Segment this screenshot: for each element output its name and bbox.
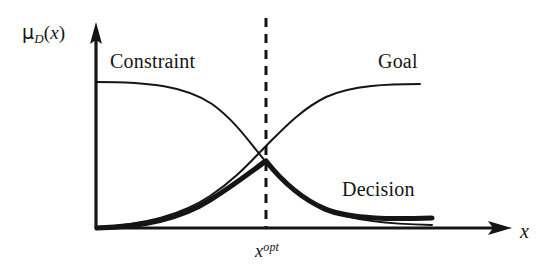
constraint-curve: [96, 82, 432, 225]
y-axis-label: μD(x): [22, 21, 65, 47]
constraint-curve-label: Constraint: [110, 50, 195, 73]
paren-close: ): [59, 22, 66, 43]
mu-glyph: μ: [22, 21, 34, 43]
mu-subscript-d: D: [34, 31, 43, 46]
goal-curve-label: Goal: [378, 50, 418, 73]
fuzzy-decision-figure: μD(x) x xopt Constraint Goal Decision: [0, 0, 551, 275]
figure-canvas: [0, 0, 551, 275]
optimum-label: xopt: [255, 240, 279, 262]
goal-curve: [97, 84, 420, 227]
decision-curve-label: Decision: [342, 178, 415, 201]
x-axis-label: x: [520, 220, 529, 243]
optimum-base: x: [255, 241, 263, 261]
y-axis-variable-x: x: [50, 22, 59, 43]
optimum-superscript: opt: [263, 240, 279, 254]
